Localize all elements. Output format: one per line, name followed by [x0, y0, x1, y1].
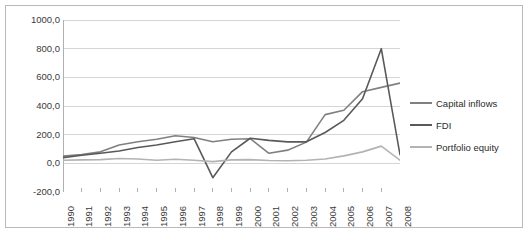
- y-tick-label: 0,0: [8, 158, 60, 168]
- chart-frame: 1000,0800,0600,0400,0200,00,0-200,0 1990…: [5, 5, 523, 228]
- series-line-capital-inflows: [63, 83, 400, 156]
- screenshot-root: 1000,0800,0600,0400,0200,00,0-200,0 1990…: [0, 0, 530, 237]
- y-tick-label: -200,0: [8, 187, 60, 197]
- plot-svg: [63, 20, 400, 192]
- series-line-portfolio-equity: [63, 146, 400, 161]
- y-tick-label: 400,0: [8, 101, 60, 111]
- legend-label: Capital inflows: [436, 98, 497, 109]
- legend-swatch-icon: [410, 102, 432, 104]
- legend-swatch-icon: [410, 124, 432, 126]
- x-axis: 1990199119921993199419951996199719981999…: [63, 193, 400, 229]
- x-tick-label: 2008: [404, 191, 438, 227]
- y-axis: 1000,0800,0600,0400,0200,00,0-200,0: [6, 6, 60, 229]
- y-tick-label: 200,0: [8, 130, 60, 140]
- legend-item[interactable]: Capital inflows: [410, 92, 528, 114]
- legend-label: FDI: [436, 120, 451, 131]
- y-tick-label: 600,0: [8, 72, 60, 82]
- legend-item[interactable]: FDI: [410, 114, 528, 136]
- legend-item[interactable]: Portfolio equity: [410, 136, 528, 158]
- chart-legend: Capital inflowsFDIPortfolio equity: [410, 92, 528, 158]
- legend-label: Portfolio equity: [436, 142, 499, 153]
- y-tick-label: 800,0: [8, 44, 60, 54]
- y-tick-label: 1000,0: [8, 15, 60, 25]
- plot-area: [63, 20, 400, 192]
- legend-swatch-icon: [410, 146, 432, 148]
